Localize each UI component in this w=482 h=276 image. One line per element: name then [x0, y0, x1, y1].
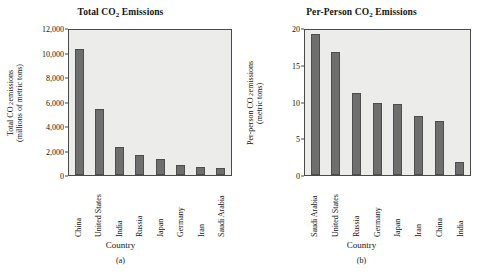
- bar: [393, 104, 402, 175]
- x-tick-label: Russia: [352, 179, 361, 237]
- x-tick-label: Germany: [373, 179, 382, 237]
- chart-title-a-suffix: Emissions: [119, 7, 163, 17]
- x-axis-title-b: Country: [241, 240, 482, 250]
- x-tick-slot: China: [68, 177, 89, 237]
- bar: [352, 93, 361, 175]
- x-tick-label: Germany: [176, 179, 185, 237]
- chart-panel-a: Total CO2 Emissions Total CO2 emissions …: [0, 0, 241, 276]
- y-axis-label-b-line2: (metric tons): [255, 38, 264, 168]
- bar-slot: [69, 30, 89, 175]
- y-axis-label-a-line2: (millions of metric tons): [15, 38, 24, 168]
- bar-slot: [130, 30, 150, 175]
- chart-panel-b: Per-Person CO2 Emissions Per-person CO2 …: [241, 0, 482, 276]
- chart-title-b-suffix: Emissions: [373, 7, 417, 17]
- bar: [435, 121, 444, 175]
- bar: [75, 49, 84, 175]
- bar-slot: [150, 30, 170, 175]
- y-tick-label: 15: [292, 61, 300, 70]
- y-tick-label: 12,000: [42, 25, 64, 34]
- x-tick-slot: China: [429, 177, 450, 237]
- x-tick-label: Saudi Arabia: [310, 179, 319, 237]
- bar-slot: [305, 30, 326, 175]
- bar-slot: [110, 30, 130, 175]
- x-tick-label: Iran: [414, 179, 423, 237]
- chart-title-a-subscript: 2: [116, 11, 120, 19]
- y-axis-label-b-prefix: Per-person CO: [246, 97, 255, 145]
- bar-group-b: [305, 30, 470, 175]
- y-axis-label-a: Total CO2 emissions (millions of metric …: [6, 38, 24, 168]
- bar-slot: [170, 30, 190, 175]
- x-axis-title-a: Country: [0, 240, 241, 250]
- x-tick-label: Russia: [135, 179, 144, 237]
- bar-slot: [408, 30, 429, 175]
- bar-group-a: [69, 30, 231, 175]
- y-tick-label: 10: [292, 98, 300, 107]
- x-tick-slot: Iran: [191, 177, 212, 237]
- figure-two-bar-charts: Total CO2 Emissions Total CO2 emissions …: [0, 0, 482, 276]
- x-tick-label: China: [74, 179, 83, 237]
- y-tick-label: 10,000: [42, 49, 64, 58]
- y-tick-label: 5: [296, 135, 300, 144]
- y-tick-label: 20: [292, 25, 300, 34]
- y-axis-label-b: Per-person CO2 emissions (metric tons): [246, 38, 264, 168]
- bar: [135, 155, 144, 175]
- bar: [95, 109, 104, 175]
- bar: [196, 167, 205, 175]
- bar: [176, 165, 185, 175]
- panel-caption-b: (b): [241, 256, 482, 265]
- chart-title-a: Total CO2 Emissions: [0, 7, 241, 17]
- x-tick-label: Japan: [156, 179, 165, 237]
- x-tick-label: Japan: [393, 179, 402, 237]
- bar-slot: [449, 30, 470, 175]
- x-tick-label: China: [435, 179, 444, 237]
- x-tick-slot: India: [450, 177, 471, 237]
- bar: [216, 168, 225, 175]
- x-tick-label: United States: [94, 179, 103, 237]
- x-tick-slot: Japan: [388, 177, 409, 237]
- y-axis-label-a-line1: Total CO2 emissions: [6, 38, 15, 168]
- chart-title-b: Per-Person CO2 Emissions: [241, 7, 482, 17]
- bar: [115, 147, 124, 175]
- y-axis-ticks-b: 20151050: [268, 29, 304, 176]
- plot-area-a: [68, 29, 232, 176]
- x-tick-label: United States: [331, 179, 340, 237]
- bar: [414, 116, 423, 175]
- bar-slot: [367, 30, 388, 175]
- chart-title-b-prefix: Per-Person CO: [306, 7, 369, 17]
- y-tick-label: 0: [60, 172, 64, 181]
- bar: [156, 159, 165, 175]
- x-tick-slot: Saudi Arabia: [304, 177, 325, 237]
- y-axis-ticks-a: 12,00010,0008,0006,0004,0002,0000: [28, 29, 68, 176]
- x-tick-label: Iran: [197, 179, 206, 237]
- plot-area-b: [304, 29, 471, 176]
- x-tick-slot: India: [109, 177, 130, 237]
- y-axis-label-b-suffix: emissions: [246, 61, 255, 95]
- y-axis-label-a-prefix: Total CO: [6, 107, 15, 136]
- panel-caption-a: (a): [0, 256, 241, 265]
- y-axis-label-a-suffix: emissions: [6, 70, 15, 104]
- bar-slot: [211, 30, 231, 175]
- bar: [455, 162, 464, 175]
- y-axis-label-b-line1: Per-person CO2 emissions: [246, 38, 255, 168]
- y-tick-label: 0: [296, 172, 300, 181]
- x-tick-slot: Saudi Arabia: [212, 177, 233, 237]
- x-tick-slot: Germany: [171, 177, 192, 237]
- bar: [331, 52, 340, 175]
- x-tick-slot: Iran: [408, 177, 429, 237]
- bar-slot: [326, 30, 347, 175]
- x-tick-label: Saudi Arabia: [217, 179, 226, 237]
- chart-title-b-subscript: 2: [369, 11, 373, 19]
- x-tick-slot: United States: [89, 177, 110, 237]
- x-tick-slot: Russia: [346, 177, 367, 237]
- bar-slot: [191, 30, 211, 175]
- bar-slot: [429, 30, 450, 175]
- x-tick-label: India: [456, 179, 465, 237]
- chart-title-a-prefix: Total CO: [78, 7, 116, 17]
- y-axis-label-b-subscript: 2: [248, 93, 254, 96]
- x-tick-slot: Russia: [130, 177, 151, 237]
- bar-slot: [388, 30, 409, 175]
- x-tick-label: India: [115, 179, 124, 237]
- bar-slot: [89, 30, 109, 175]
- x-axis-ticks-b: Saudi ArabiaUnited StatesRussiaGermanyJa…: [304, 177, 471, 237]
- bar: [373, 103, 382, 176]
